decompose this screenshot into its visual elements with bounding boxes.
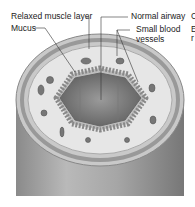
label-relaxed-muscle-layer: Relaxed muscle layer (11, 11, 92, 21)
label-mucus: Mucus (11, 23, 36, 33)
cut-off-text-1: C (191, 11, 195, 21)
cut-off-text-3: r (191, 33, 194, 43)
label-normal-airway: Normal airway (131, 11, 185, 21)
label-vessels: vessels (136, 34, 164, 44)
label-small-blood: Small blood (136, 24, 180, 34)
